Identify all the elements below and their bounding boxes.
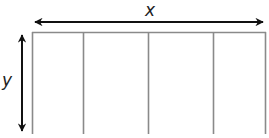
width-label-x: x [144, 0, 156, 20]
dimension-diagram: x y [0, 0, 269, 138]
height-label-y: y [1, 70, 13, 90]
